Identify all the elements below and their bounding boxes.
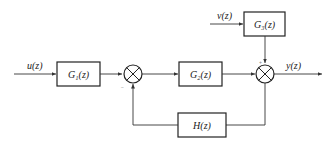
disturbance-label: v(z) (217, 10, 233, 22)
input-label: u(z) (27, 60, 43, 72)
feedback-arrow-to-sum1 (133, 84, 178, 125)
block-diagram: u(z) G₁(z) − G₂(z) v(z) G₃(z) + y(z) H(z… (0, 0, 335, 147)
summing-junction-2 (256, 65, 274, 83)
g2-label: G₂(z) (190, 69, 212, 81)
feedback-line-right (226, 83, 265, 125)
h-label: H(z) (192, 120, 211, 132)
output-label: y(z) (285, 60, 302, 72)
summing-junction-1 (124, 65, 142, 83)
sum2-plus-sign: + (259, 59, 262, 65)
sum1-minus-sign: − (121, 84, 124, 90)
g3-label: G₃(z) (254, 19, 276, 31)
g1-label: G₁(z) (68, 69, 90, 81)
